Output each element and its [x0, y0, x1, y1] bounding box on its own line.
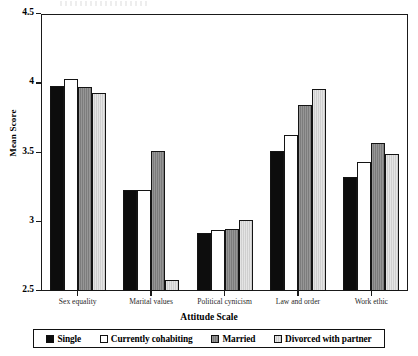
legend-item: Currently cohabiting	[100, 334, 193, 344]
x-tick-mark	[77, 291, 78, 296]
bar	[385, 154, 399, 291]
swatch-divorced-with-partner-icon	[274, 335, 282, 343]
y-tick-label: 2.5	[22, 284, 34, 294]
legend-item: Single	[46, 334, 81, 344]
bar	[151, 151, 165, 291]
bar	[92, 93, 106, 291]
y-tick-label: 4.5	[22, 7, 34, 17]
scan-artifact	[60, 1, 150, 6]
legend-label: Single	[57, 334, 81, 344]
x-tick-mark	[297, 291, 298, 296]
bar	[64, 79, 78, 291]
legend-label: Currently cohabiting	[111, 334, 193, 344]
x-tick-mark	[371, 291, 372, 296]
legend-label: Married	[222, 334, 255, 344]
bar	[239, 220, 253, 291]
y-tick-label: 3.5	[22, 146, 34, 156]
x-tick-label: Work ethic	[355, 297, 388, 306]
x-tick-label: Marital values	[129, 297, 173, 306]
y-tick-label: 4	[29, 76, 34, 86]
bar	[197, 233, 211, 291]
bar	[165, 280, 179, 291]
bar	[123, 190, 137, 291]
swatch-currently-cohabiting-icon	[100, 335, 108, 343]
bar	[270, 151, 284, 291]
bar	[50, 86, 64, 291]
y-tick-label: 3	[29, 215, 34, 225]
legend-item: Divorced with partner	[274, 334, 372, 344]
x-tick-label: Sex equality	[59, 297, 97, 306]
swatch-single-icon	[46, 335, 54, 343]
bar	[357, 162, 371, 291]
bar	[137, 190, 151, 291]
x-tick-mark	[224, 291, 225, 296]
bar	[211, 230, 225, 291]
x-tick-label: Political cynicism	[197, 297, 252, 306]
bar	[225, 229, 239, 291]
bar	[312, 89, 326, 291]
bar	[284, 135, 298, 292]
bar-chart-figure: Mean Score 2.533.544.5 Sex equalityMarit…	[0, 0, 418, 356]
swatch-married-icon	[211, 335, 219, 343]
bar	[343, 177, 357, 291]
bar	[371, 143, 385, 291]
legend-label: Divorced with partner	[285, 334, 372, 344]
y-axis-title: Mean Score	[8, 93, 18, 173]
x-axis-title: Attitude Scale	[0, 312, 418, 322]
bars-layer	[41, 14, 408, 291]
chart-legend: SingleCurrently cohabitingMarriedDivorce…	[33, 329, 385, 348]
bar	[298, 105, 312, 291]
bar	[78, 87, 92, 291]
x-tick-label: Law and order	[276, 297, 320, 306]
x-tick-mark	[150, 291, 151, 296]
legend-item: Married	[211, 334, 255, 344]
